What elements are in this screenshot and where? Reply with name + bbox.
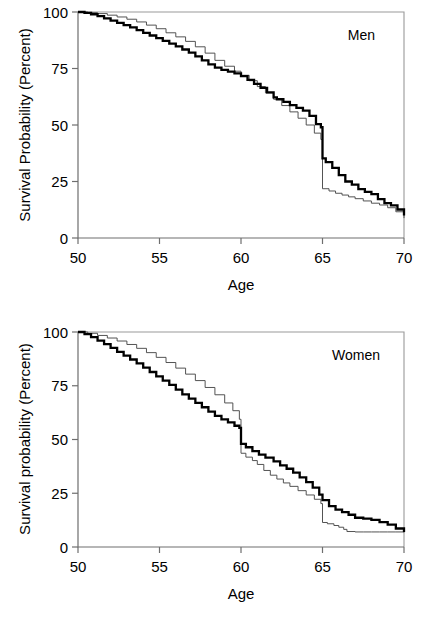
x-tick-label-65: 65 <box>314 249 331 266</box>
y-tick-label-100: 100 <box>43 324 68 341</box>
y-tick-label-50: 50 <box>51 431 68 448</box>
x-axis-title: Age <box>228 585 255 602</box>
panel-annotation-women: Women <box>332 347 380 363</box>
x-axis-ticks-men <box>78 238 404 244</box>
y-axis-title: Survival probability (Percent) <box>16 343 33 535</box>
chart-panel-women: 0 25 50 75 100 50 55 60 65 70 Age Surviv… <box>0 300 424 622</box>
y-tick-label-0: 0 <box>60 539 68 556</box>
y-axis-ticks-women <box>72 332 78 547</box>
x-tick-label-50: 50 <box>70 249 87 266</box>
chart-svg-men: 0 25 50 75 100 50 55 60 65 70 Age Surviv… <box>0 0 424 311</box>
y-axis-ticks-men <box>72 12 78 238</box>
y-tick-label-100: 100 <box>43 4 68 21</box>
panel-annotation-men: Men <box>348 27 375 43</box>
x-tick-label-70: 70 <box>396 558 413 575</box>
y-tick-label-75: 75 <box>51 60 68 77</box>
x-tick-label-50: 50 <box>70 558 87 575</box>
plot-frame-men <box>78 12 404 238</box>
y-tick-label-0: 0 <box>60 230 68 247</box>
y-tick-label-25: 25 <box>51 173 68 190</box>
x-axis-title: Age <box>228 276 255 293</box>
chart-svg-women: 0 25 50 75 100 50 55 60 65 70 Age Surviv… <box>0 300 424 622</box>
chart-panel-men: 0 25 50 75 100 50 55 60 65 70 Age Surviv… <box>0 0 424 311</box>
x-tick-label-60: 60 <box>233 249 250 266</box>
y-tick-label-25: 25 <box>51 485 68 502</box>
x-axis-ticks-women <box>78 547 404 553</box>
x-tick-label-55: 55 <box>151 558 168 575</box>
y-tick-label-75: 75 <box>51 377 68 394</box>
x-tick-label-60: 60 <box>233 558 250 575</box>
x-tick-label-55: 55 <box>151 249 168 266</box>
y-tick-label-50: 50 <box>51 117 68 134</box>
y-axis-title: Survival Probability (Percent) <box>16 28 33 221</box>
x-tick-label-70: 70 <box>396 249 413 266</box>
x-tick-label-65: 65 <box>314 558 331 575</box>
